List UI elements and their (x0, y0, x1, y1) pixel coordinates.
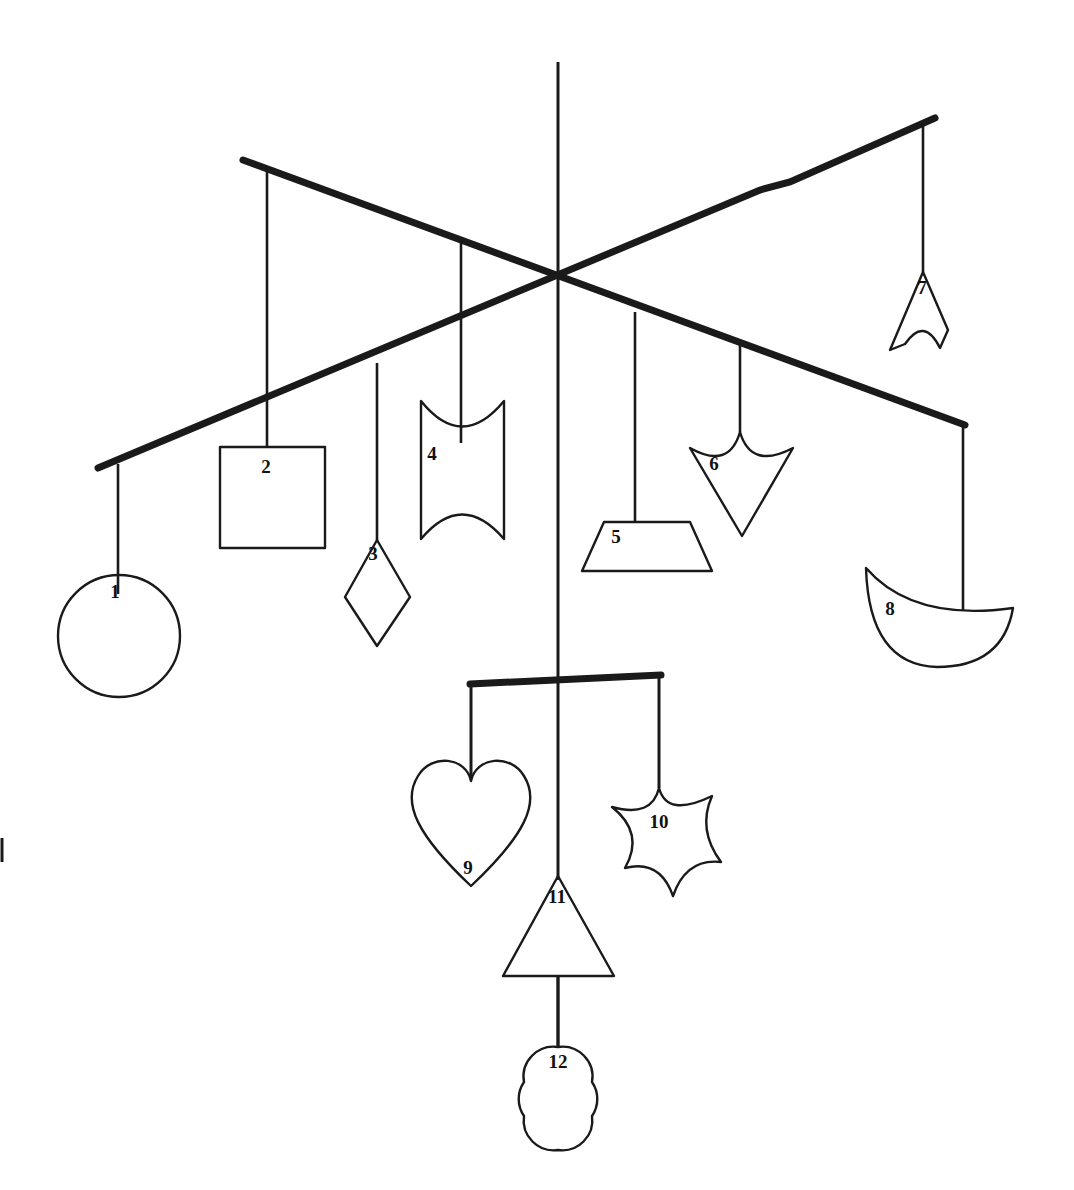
shape-9-label: 9 (463, 857, 473, 878)
shape-10-label: 10 (650, 811, 669, 832)
shape-3-label: 3 (368, 543, 378, 564)
shape-4-label: 4 (427, 443, 437, 464)
shape-12-label: 12 (549, 1051, 568, 1072)
mobile-diagram-canvas: 1 2 3 4 5 6 7 8 9 10 11 12 (0, 0, 1074, 1190)
shape-10-star (612, 788, 721, 896)
crossbar-c (470, 675, 661, 684)
shape-1-label: 1 (110, 581, 120, 602)
mobile-drawing: 1 2 3 4 5 6 7 8 9 10 11 12 (0, 0, 1074, 1190)
shape-7-label: 7 (917, 277, 927, 298)
shape-8-label: 8 (885, 598, 895, 619)
shape-2-square (220, 447, 325, 548)
crossbar-b (98, 118, 935, 468)
shape-2-label: 2 (261, 456, 271, 477)
shape-4-concave-square (421, 401, 504, 539)
shape-5-label: 5 (611, 526, 621, 547)
shape-5-trapezoid (582, 522, 712, 571)
shape-6-label: 6 (709, 453, 719, 474)
shape-6-concave-kite (690, 432, 793, 536)
crossbar-a (243, 160, 965, 425)
shape-11-label: 11 (548, 886, 566, 907)
